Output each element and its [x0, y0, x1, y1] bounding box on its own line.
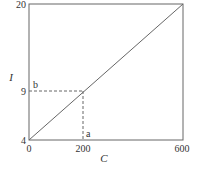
- chart: 20 9 4 0 200 600 I C b a: [0, 0, 200, 171]
- annotation-a: a: [86, 128, 91, 139]
- x-tick-200: 200: [76, 143, 91, 154]
- annotation-b: b: [33, 79, 38, 90]
- x-tick-600: 600: [175, 143, 190, 154]
- y-tick-20: 20: [16, 0, 26, 10]
- y-axis-label: I: [8, 71, 14, 83]
- x-axis-label: C: [100, 152, 108, 164]
- x-tick-0: 0: [27, 143, 32, 154]
- y-tick-9: 9: [21, 86, 26, 97]
- y-tick-4: 4: [21, 135, 26, 146]
- data-line: [29, 4, 183, 140]
